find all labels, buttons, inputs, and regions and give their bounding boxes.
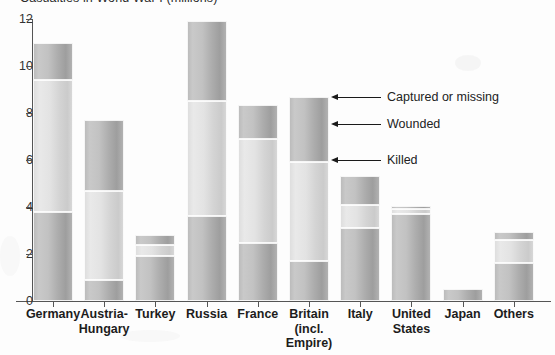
plot-area [33,19,545,301]
y-axis-ticks: 121086420 [0,0,33,355]
annotation-leader-line [337,124,381,125]
bar-segment-killed [238,243,278,301]
bar-segment-wounded [84,191,124,280]
bar-austria-hungary[interactable] [84,19,124,301]
bar-segment-killed [443,289,483,301]
x-axis-label-line: Others [478,307,550,322]
y-axis-tick-mark [26,207,32,208]
y-axis-tick-label: 0 [13,294,33,308]
bar-segment-killed [494,263,534,301]
annotation-leader-line [337,160,381,161]
annotation-arrow-icon [331,94,338,100]
bar-segment-wounded [340,205,380,229]
bar-segment-captured-or-missing [238,105,278,139]
bar-segment-wounded [33,80,73,212]
bar-segment-wounded [187,101,227,216]
bar-segment-captured-or-missing [84,120,124,191]
bar-segment-killed [340,228,380,301]
annotation-leader-line [337,97,381,98]
x-axis-label-line: Empire) [273,336,345,351]
bar-segment-captured-or-missing [33,43,73,81]
y-axis-tick-mark [26,113,32,114]
bar-segment-captured-or-missing [340,176,380,204]
bar-segment-captured-or-missing [135,235,175,244]
bar-japan[interactable] [443,19,483,301]
bar-segment-captured-or-missing [494,232,534,240]
bar-britain-incl-empire[interactable] [289,19,329,301]
annotation-arrow-icon [331,121,338,127]
bar-turkey[interactable] [135,19,175,301]
bar-segment-captured-or-missing [289,97,329,163]
bar-segment-killed [84,280,124,301]
annotation-label: Captured or missing [387,90,499,104]
annotation-label: Killed [387,153,418,167]
x-axis-line [16,301,551,302]
bar-segment-killed [187,216,227,301]
y-axis-tick-mark [26,66,32,67]
annotation-label: Wounded [387,117,440,131]
chart-canvas: Casualties in World War I (millions) 121… [0,0,555,355]
x-axis-label-line: Hungary [68,322,140,337]
x-axis-label-line: (incl. [273,322,345,337]
y-axis-tick-mark [26,254,32,255]
bar-germany[interactable] [33,19,73,301]
bar-segment-killed [289,261,329,301]
bar-segment-wounded [135,245,175,257]
x-axis-label-line: States [375,322,447,337]
bar-segment-wounded [391,209,431,214]
y-axis-tick-mark [26,160,32,161]
x-axis-label: Others [478,307,550,322]
annotation-arrow-icon [331,157,338,163]
bar-segment-wounded [289,162,329,261]
bar-france[interactable] [238,19,278,301]
bar-segment-captured-or-missing [391,206,431,210]
bar-segment-captured-or-missing [187,21,227,101]
bar-russia[interactable] [187,19,227,301]
bar-segment-killed [135,256,175,301]
bar-others[interactable] [494,19,534,301]
y-axis-tick-mark [26,19,32,20]
bar-segment-wounded [494,240,534,264]
bar-segment-killed [33,212,73,301]
chart-title: Casualties in World War I (millions) [20,0,217,5]
bar-segment-wounded [238,139,278,244]
bar-segment-killed [391,214,431,301]
